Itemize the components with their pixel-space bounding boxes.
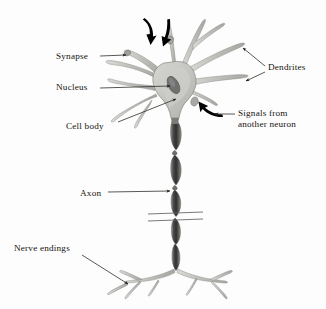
leader-synapse xyxy=(100,55,126,56)
label-signals-line-2: another neuron xyxy=(238,119,296,130)
axon xyxy=(171,118,182,271)
label-signals-line-1: Signals from xyxy=(238,108,296,119)
nerve-ending-branches xyxy=(107,269,232,299)
neuron-illustration xyxy=(0,0,326,309)
neuron-diagram-figure: Synapse Nucleus Cell body Axon Nerve end… xyxy=(0,0,326,309)
label-signals-from-another-neuron: Signals from another neuron xyxy=(238,108,296,130)
signal-arrow-right xyxy=(198,101,223,117)
axon-break-marks xyxy=(148,212,203,221)
signal-arrow-left xyxy=(143,18,157,45)
label-axon: Axon xyxy=(80,188,101,199)
leader-dendrites-upper xyxy=(243,48,265,66)
leader-axon xyxy=(108,191,170,192)
label-nerve-endings: Nerve endings xyxy=(14,243,70,254)
label-dendrites: Dendrites xyxy=(268,62,306,73)
label-synapse: Synapse xyxy=(56,51,88,62)
label-nucleus: Nucleus xyxy=(56,82,88,93)
label-cell-body: Cell body xyxy=(66,121,104,132)
leader-nerve-endings xyxy=(82,255,128,284)
incoming-synapse-bouton xyxy=(190,96,200,107)
leader-dendrites-lower xyxy=(246,72,265,81)
